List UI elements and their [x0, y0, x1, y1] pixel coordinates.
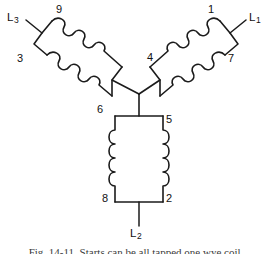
coil-number-6: 6	[97, 104, 103, 115]
terminal-l3-subscript: 3	[13, 15, 18, 25]
phase-1-coil-winding-bottom	[160, 52, 225, 96]
phase-2-coil	[109, 116, 169, 226]
phase-1-coil-winding-top	[150, 18, 220, 67]
figure-caption: Fig. 14-11. Starts can be all tapped one…	[0, 246, 272, 254]
coil-number-7: 7	[228, 53, 234, 64]
phase-3-coil	[34, 18, 139, 96]
terminal-label-l3: L3	[7, 12, 19, 26]
wye-winding-diagram	[0, 0, 272, 254]
phase-2-coil-winding-left	[109, 116, 115, 202]
coil-number-3: 3	[17, 53, 23, 64]
coil-number-8: 8	[102, 193, 108, 204]
terminal-l1-subscript: 1	[255, 15, 260, 25]
wye-center-point	[138, 93, 140, 95]
terminal-label-l1: L1	[249, 12, 261, 26]
terminal-label-l2: L2	[130, 228, 142, 242]
phase-3-coil-winding-top	[52, 18, 122, 67]
l3-lead-wire	[26, 20, 42, 33]
phase-3-coil-outline	[34, 21, 52, 55]
coil-number-9: 9	[56, 4, 62, 15]
phase-2-coil-winding-right	[163, 116, 169, 202]
figure-root: L3 L1 L2 9 3 6 1 4 7 5 8 2 Fig. 14-11. S…	[0, 0, 272, 254]
phase-3-coil-winding-bottom	[47, 52, 112, 96]
l1-lead-wire	[230, 20, 246, 33]
coil-number-2: 2	[166, 193, 172, 204]
coil-number-4: 4	[147, 52, 153, 63]
coil-number-5: 5	[166, 114, 172, 125]
phase-1-to-junction-wire	[139, 80, 160, 94]
terminal-l2-subscript: 2	[136, 231, 141, 241]
phase-1-coil-outline	[220, 21, 238, 55]
coil-number-1: 1	[208, 4, 214, 15]
phase-3-to-junction-wire	[112, 80, 139, 94]
phase-1-coil	[139, 18, 238, 96]
